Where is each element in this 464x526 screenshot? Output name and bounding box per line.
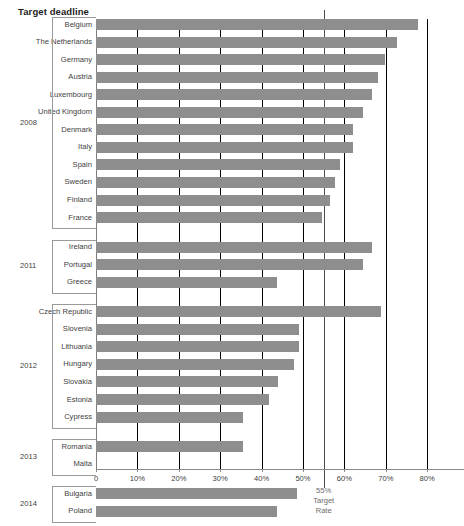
bar-row	[96, 441, 464, 452]
group-year-2014: 2014	[20, 499, 50, 508]
bar-spain	[96, 159, 340, 170]
x-axis-line	[96, 469, 464, 470]
bar-slovakia	[96, 376, 278, 387]
bar-denmark	[96, 124, 353, 135]
bar-belgium	[96, 19, 418, 30]
bar-row	[96, 324, 464, 335]
bar-row	[96, 488, 464, 499]
bar-hungary	[96, 359, 294, 370]
bar-the-netherlands	[96, 37, 397, 48]
tick-mark	[262, 469, 263, 472]
bar-ireland	[96, 242, 372, 253]
bar-estonia	[96, 394, 269, 405]
bar-portugal	[96, 259, 363, 270]
bar-row	[96, 459, 464, 470]
bar-row	[96, 54, 464, 65]
bar-greece	[96, 277, 277, 288]
group-year-2012: 2012	[20, 361, 50, 370]
tick-label-30: 30%	[200, 474, 240, 483]
bar-row	[96, 376, 464, 387]
tick-mark	[96, 469, 97, 472]
bar-row	[96, 195, 464, 206]
tick-label-70: 70%	[366, 474, 406, 483]
bar-row	[96, 177, 464, 188]
tick-mark	[220, 469, 221, 472]
bar-luxembourg	[96, 89, 372, 100]
tick-mark	[386, 469, 387, 472]
bar-row	[96, 306, 464, 317]
tick-label-80: 80%	[407, 474, 447, 483]
bar-row	[96, 142, 464, 153]
tick-label-50: 50%	[283, 474, 323, 483]
bar-germany	[96, 54, 385, 65]
tick-mark	[344, 469, 345, 472]
bar-row	[96, 242, 464, 253]
bar-united-kingdom	[96, 107, 363, 118]
tick-mark	[303, 469, 304, 472]
target-rate-label-line-1: 55%	[289, 486, 359, 496]
bar-row	[96, 212, 464, 223]
tick-label-40: 40%	[242, 474, 282, 483]
bar-row	[96, 259, 464, 270]
bar-slovenia	[96, 324, 299, 335]
target-rate-label: 55%TargetRate	[289, 486, 359, 516]
group-bracket-2014	[52, 486, 96, 523]
bar-row	[96, 394, 464, 405]
tick-label-0: 0	[76, 474, 116, 483]
bar-sweden	[96, 177, 335, 188]
group-year-2008: 2008	[20, 118, 50, 127]
bar-row	[96, 359, 464, 370]
tick-mark	[179, 469, 180, 472]
tick-mark	[427, 469, 428, 472]
tick-label-10: 10%	[117, 474, 157, 483]
group-bracket-2013	[52, 439, 96, 476]
group-bracket-2008	[52, 17, 96, 229]
bar-row	[96, 412, 464, 423]
bar-lithuania	[96, 341, 299, 352]
bar-austria	[96, 72, 378, 83]
bar-france	[96, 212, 322, 223]
group-bracket-2011	[52, 240, 96, 294]
bar-czech-republic	[96, 306, 381, 317]
bar-cypress	[96, 412, 243, 423]
tick-label-60: 60%	[324, 474, 364, 483]
page-title: Target deadline	[18, 6, 89, 17]
tick-mark	[137, 469, 138, 472]
bar-bulgaria	[96, 488, 297, 499]
bar-row	[96, 124, 464, 135]
bar-italy	[96, 142, 353, 153]
bar-row	[96, 37, 464, 48]
bar-row	[96, 89, 464, 100]
target-rate-label-line-3: Rate	[289, 506, 359, 516]
group-year-2011: 2011	[20, 261, 50, 270]
tick-label-20: 20%	[159, 474, 199, 483]
group-year-2013: 2013	[20, 452, 50, 461]
bar-row	[96, 341, 464, 352]
bar-poland	[96, 506, 277, 517]
bar-row	[96, 277, 464, 288]
group-bracket-2012	[52, 304, 96, 428]
bar-finland	[96, 195, 330, 206]
bar-row	[96, 159, 464, 170]
plot-area	[96, 19, 464, 469]
recycling-target-chart: Target deadline BelgiumThe NetherlandsGe…	[0, 0, 464, 526]
bar-romania	[96, 441, 243, 452]
bar-row	[96, 107, 464, 118]
target-rate-label-line-2: Target	[289, 496, 359, 506]
bar-row	[96, 72, 464, 83]
bar-row	[96, 506, 464, 517]
bar-row	[96, 19, 464, 30]
